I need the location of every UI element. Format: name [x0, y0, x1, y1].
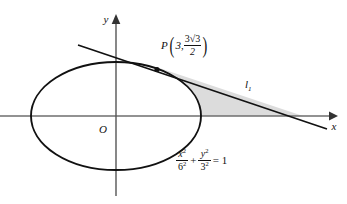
shaded-region — [157, 67, 303, 116]
equation-x-term: x262 — [176, 148, 188, 173]
point-p-y-denominator: 2 — [184, 47, 202, 58]
equation-x-numerator: x2 — [176, 148, 188, 160]
y-axis — [112, 14, 121, 196]
point-p-marker — [154, 67, 159, 72]
origin-label: O — [99, 123, 107, 135]
point-p-y-radical: √3 — [190, 33, 201, 44]
point-p-y-fraction: 3√32 — [184, 34, 202, 58]
equation-y-numerator: y2 — [198, 148, 210, 160]
point-p-y-numerator: 3√3 — [184, 34, 202, 45]
equation-y-term: y232 — [198, 148, 210, 173]
x-axis-label: x — [331, 120, 337, 132]
equation-y-denominator: 32 — [198, 161, 210, 173]
point-p-name: P — [161, 39, 168, 51]
tangent-line-label-subscript: 1 — [248, 85, 252, 93]
point-p-label: P(3,3√32) — [161, 35, 209, 59]
point-p-open-paren: ( — [169, 34, 174, 57]
ellipse-equation: x262+y232= 1 — [176, 148, 229, 173]
equation-x-denominator: 62 — [176, 161, 188, 173]
equation-plus: + — [188, 155, 198, 166]
equation-equals-one: = 1 — [211, 155, 229, 166]
y-axis-label: y — [103, 13, 109, 25]
point-p-close-paren: ) — [203, 34, 208, 57]
ellipse-tangent-figure: y x O l1 — [0, 0, 347, 204]
tangent-line-label: l1 — [245, 78, 252, 93]
point-p-x-value: 3, — [175, 39, 183, 51]
